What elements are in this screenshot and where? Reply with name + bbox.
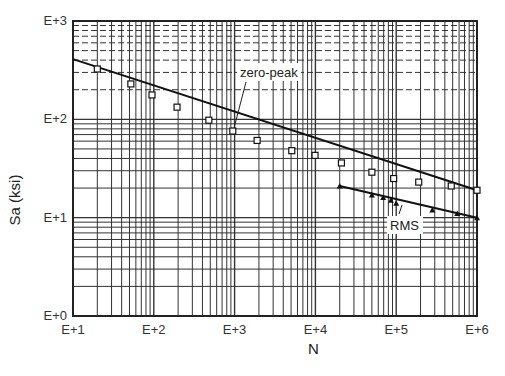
- rms-leader: [399, 205, 402, 214]
- zero-peak-leader: [234, 82, 246, 128]
- x-tick-label: E+5: [384, 322, 408, 337]
- zero-peak-marker: [206, 117, 212, 123]
- zero-peak-marker: [289, 148, 295, 154]
- y-tick-labels: E+0E+1E+2E+3: [44, 13, 68, 323]
- x-axis-label: N: [308, 340, 319, 357]
- x-tick-labels: E+1E+2E+3E+4E+5E+6: [61, 322, 489, 337]
- zero-peak-marker: [416, 179, 422, 185]
- x-tick-label: E+3: [223, 322, 247, 337]
- zero-peak-marker: [128, 81, 134, 87]
- x-tick-label: E+6: [465, 322, 489, 337]
- zero-peak-marker: [338, 160, 344, 166]
- zero-peak-marker: [448, 183, 454, 189]
- y-axis-label: Sa (ksi): [6, 175, 23, 226]
- data-series: [73, 59, 480, 220]
- x-tick-label: E+4: [304, 322, 328, 337]
- zero-peak-marker: [312, 152, 318, 158]
- zero-peak-marker: [474, 187, 480, 193]
- x-tick-label: E+1: [61, 322, 85, 337]
- zero-peak-marker: [230, 128, 236, 134]
- zero-peak-marker: [94, 66, 100, 72]
- y-tick-label: E+2: [44, 111, 68, 126]
- zero-peak-label: zero-peak: [240, 65, 298, 80]
- y-tick-label: E+1: [44, 210, 68, 225]
- x-tick-label: E+2: [142, 322, 166, 337]
- zero-peak-marker: [254, 137, 260, 143]
- rms-label: RMS: [390, 218, 419, 233]
- zero-peak-marker: [369, 169, 375, 175]
- sn-curve-chart: E+1E+2E+3E+4E+5E+6 E+0E+1E+2E+3 zero-pea…: [0, 0, 505, 376]
- zero-peak-marker: [391, 176, 397, 182]
- y-tick-label: E+0: [44, 308, 68, 323]
- zero-peak-marker: [149, 92, 155, 98]
- y-tick-label: E+3: [44, 13, 68, 28]
- RMS-marker: [393, 200, 399, 206]
- zero-peak-marker: [174, 104, 180, 110]
